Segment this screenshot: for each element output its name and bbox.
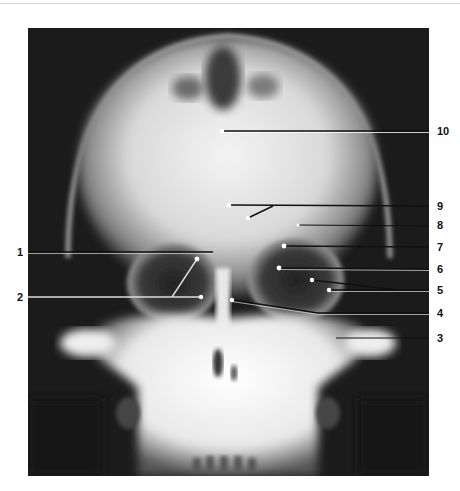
label-7: 7: [437, 241, 443, 253]
label-6: 6: [437, 263, 443, 275]
label-5: 5: [437, 284, 443, 296]
label-2: 2: [17, 291, 23, 303]
label-3: 3: [437, 332, 443, 344]
figure-caption: [16, 485, 456, 491]
label-9: 9: [437, 200, 443, 212]
top-rule: [0, 3, 460, 4]
radiograph-image: [28, 28, 429, 476]
label-1: 1: [17, 246, 23, 258]
label-4: 4: [437, 307, 443, 319]
label-8: 8: [437, 219, 443, 231]
label-10: 10: [437, 125, 449, 137]
skull-radiograph: [28, 28, 429, 476]
